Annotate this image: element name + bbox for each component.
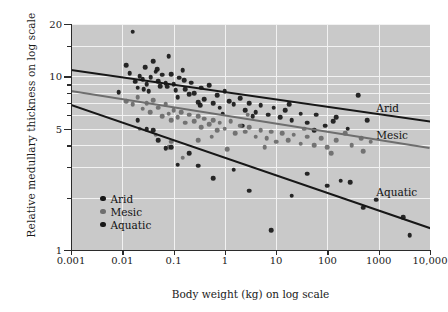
gridline-vertical <box>327 24 328 250</box>
data-point-mesic <box>175 115 180 120</box>
y-tick <box>64 250 71 251</box>
data-point-aquatic <box>247 188 252 193</box>
legend-item-arid[interactable]: Arid <box>100 192 151 205</box>
data-point-arid <box>278 115 283 120</box>
data-point-mesic <box>291 133 296 138</box>
legend-swatch-aquatic <box>100 222 106 228</box>
data-point-arid <box>238 96 243 101</box>
data-point-arid <box>160 73 165 78</box>
chart-legend: AridMesicAquatic <box>100 192 151 231</box>
data-point-aquatic <box>289 194 294 199</box>
gridline-horizontal <box>71 145 430 146</box>
data-point-mesic <box>319 136 324 141</box>
data-point-mesic <box>148 110 153 115</box>
data-point-mesic <box>180 155 185 160</box>
data-point-arid <box>287 102 292 107</box>
data-point-arid <box>323 123 328 128</box>
data-point-mesic <box>269 129 274 134</box>
data-point-aquatic <box>169 145 174 150</box>
data-point-mesic <box>192 119 197 124</box>
data-point-arid <box>198 103 203 108</box>
data-point-mesic <box>329 151 334 156</box>
data-point-arid <box>166 54 171 59</box>
data-point-aquatic <box>135 118 140 123</box>
legend-label: Mesic <box>111 206 143 218</box>
legend-label: Arid <box>111 193 134 205</box>
data-point-arid <box>365 118 370 123</box>
data-point-arid <box>143 65 148 70</box>
data-point-mesic <box>187 113 192 118</box>
data-point-arid <box>258 103 263 108</box>
y-tick-minor <box>67 103 71 104</box>
data-point-arid <box>158 84 163 89</box>
data-point-arid <box>202 97 207 102</box>
data-point-aquatic <box>211 176 216 181</box>
y-tick-label: 20 <box>49 19 62 30</box>
data-point-arid <box>218 105 223 110</box>
data-point-arid <box>141 87 146 92</box>
data-point-arid <box>165 85 170 90</box>
y-tick-minor <box>67 93 71 94</box>
data-point-mesic <box>312 143 317 148</box>
data-point-aquatic <box>163 146 168 151</box>
data-point-mesic <box>245 113 250 118</box>
data-point-arid <box>192 91 197 96</box>
x-tick <box>379 250 380 255</box>
data-point-mesic <box>350 143 355 148</box>
data-point-mesic <box>151 98 156 103</box>
data-point-arid <box>187 92 192 97</box>
data-point-arid <box>144 82 149 87</box>
data-point-mesic <box>196 114 201 119</box>
y-tick-minor <box>67 115 71 116</box>
data-point-mesic <box>258 128 263 133</box>
data-point-mesic <box>130 102 135 107</box>
data-point-mesic <box>183 120 188 125</box>
data-point-mesic <box>223 126 228 131</box>
data-point-arid <box>211 101 216 106</box>
y-tick-minor <box>67 46 71 47</box>
x-tick <box>327 250 328 255</box>
legend-item-aquatic[interactable]: Aquatic <box>100 218 151 231</box>
data-point-arid <box>356 93 361 98</box>
data-point-mesic <box>218 120 223 125</box>
data-point-arid <box>180 68 185 73</box>
data-point-mesic <box>160 114 165 119</box>
data-point-arid <box>289 118 294 123</box>
data-point-mesic <box>253 134 258 139</box>
gridline-vertical <box>71 24 72 250</box>
y-tick <box>64 24 71 25</box>
data-point-aquatic <box>338 179 343 184</box>
gridline-vertical <box>225 24 226 250</box>
x-tick <box>276 250 277 255</box>
data-point-aquatic <box>407 233 412 238</box>
y-axis-label: Relative medullary thickness on log scal… <box>25 0 37 250</box>
data-point-mesic <box>166 111 171 116</box>
plot-area: AridMesicAquaticAridMesicAquatic <box>71 24 430 250</box>
data-point-mesic <box>247 125 252 130</box>
legend-item-mesic[interactable]: Mesic <box>100 205 151 218</box>
data-point-mesic <box>140 106 145 111</box>
x-tick-label: 10,000 <box>413 255 448 266</box>
data-point-mesic <box>207 122 212 127</box>
data-point-aquatic <box>187 151 192 156</box>
data-point-mesic <box>238 123 243 128</box>
y-tick <box>64 76 71 77</box>
data-point-arid <box>266 113 271 118</box>
data-point-mesic <box>209 134 214 139</box>
y-tick-minor <box>67 198 71 199</box>
y-tick-minor <box>67 84 71 85</box>
gridline-horizontal <box>71 24 430 25</box>
data-point-mesic <box>361 149 366 154</box>
data-point-mesic <box>305 134 310 139</box>
x-tick <box>174 250 175 255</box>
data-point-mesic <box>215 128 220 133</box>
data-point-arid <box>314 113 319 118</box>
y-tick-label: 5 <box>56 123 62 134</box>
data-point-arid <box>298 111 303 116</box>
data-point-arid <box>155 67 160 72</box>
data-point-aquatic <box>175 162 180 167</box>
data-point-mesic <box>274 139 279 144</box>
data-point-arid <box>227 99 232 104</box>
data-point-arid <box>182 78 187 83</box>
x-tick <box>225 250 226 255</box>
